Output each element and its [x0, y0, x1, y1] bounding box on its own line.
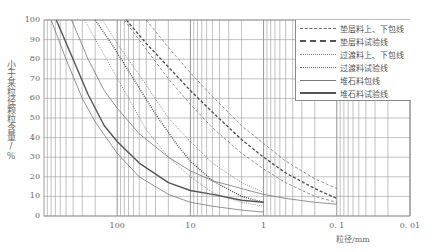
legend-item-cushion-test: 垫层料试验线 — [300, 35, 388, 47]
dashed-thin-swatch-icon — [300, 28, 336, 29]
y-tick-label: 60 — [16, 93, 40, 102]
solid-thin-swatch-icon — [300, 80, 336, 81]
x-tick-label: 0. 01 — [400, 221, 420, 230]
y-tick-label: 70 — [16, 74, 40, 83]
dotted-thin-swatch-icon — [300, 54, 336, 55]
y-tick-label: 0 — [16, 211, 40, 220]
legend-item-transition-envelope: 过渡料上、下包线 — [300, 48, 404, 60]
y-tick-label: 20 — [16, 172, 40, 181]
x-tick-label: 10 — [185, 221, 195, 230]
y-tick-label: 90 — [16, 35, 40, 44]
dashed-thick-swatch-icon — [300, 40, 336, 42]
solid-thick-swatch-icon — [300, 92, 336, 94]
curve-堆石料试验线 — [56, 20, 263, 202]
y-tick-label: 10 — [16, 191, 40, 200]
y-tick-label: 40 — [16, 133, 40, 142]
y-tick-label: 30 — [16, 152, 40, 161]
x-tick-label: 0. 1 — [329, 221, 344, 230]
legend-item-transition-test: 过渡料试验线 — [300, 61, 388, 73]
legend-item-cushion-envelope: 垫层料上、下包线 — [300, 22, 404, 34]
legend-item-rockfill-envelope: 堆石料包线 — [300, 74, 380, 86]
x-tick-label: 1 — [261, 221, 266, 230]
legend: 垫层料上、下包线 垫层料试验线 过渡料上、下包线 过渡料试验线 堆石料包线 堆石… — [295, 20, 411, 101]
dotted-thick-swatch-icon — [300, 67, 336, 68]
y-axis-label: 小于某粒径颗粒含量/% — [2, 60, 16, 161]
y-tick-label: 50 — [16, 113, 40, 122]
x-axis-label: 粒径/mm — [336, 233, 370, 244]
y-tick-label: 80 — [16, 54, 40, 63]
legend-item-rockfill-test: 堆石料试验线 — [300, 87, 388, 99]
x-tick-label: 100 — [110, 221, 125, 230]
curve-过渡料下包线 — [85, 20, 264, 206]
y-tick-label: 100 — [16, 15, 40, 24]
